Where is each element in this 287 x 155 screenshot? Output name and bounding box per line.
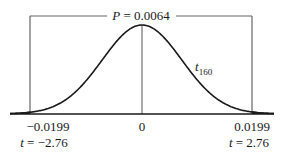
left-cutoff-value-label: −0.0199: [26, 119, 69, 134]
t-distribution-diagram: P = 0.0064 t160 −0.0199 0 0.0199 t = −2.…: [0, 0, 287, 155]
left-t-label: t = −2.76: [20, 135, 68, 150]
curve-label-subscript: 160: [199, 67, 213, 77]
right-t-label: t = 2.76: [229, 135, 270, 150]
p-eq: =: [120, 8, 134, 23]
p-var: P: [111, 8, 120, 23]
right-cutoff-value-label: 0.0199: [234, 119, 270, 134]
center-tick-label: 0: [139, 119, 146, 134]
right-t-rest: = 2.76: [233, 135, 270, 150]
left-t-rest: = −2.76: [24, 135, 68, 150]
p-value-label: P = 0.0064: [111, 8, 170, 23]
p-value: 0.0064: [134, 8, 170, 23]
curve-label: t160: [195, 59, 213, 77]
